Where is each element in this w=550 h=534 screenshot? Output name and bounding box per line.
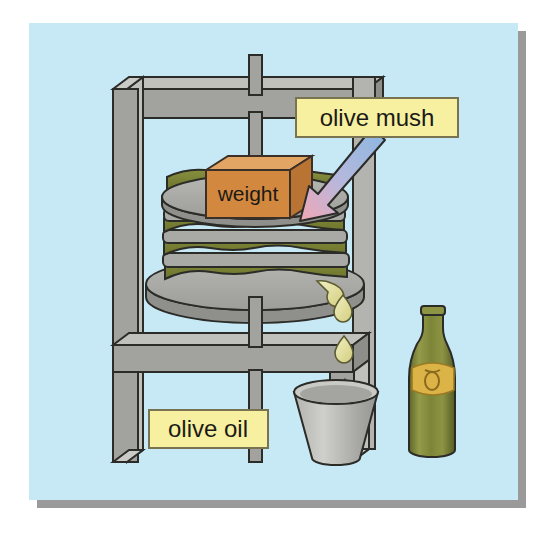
weight-label: weight <box>217 182 279 205</box>
olive-oil-label-text: olive oil <box>168 415 248 442</box>
frame-mid-beam-top-face <box>113 333 369 345</box>
bucket-inner <box>300 385 372 403</box>
press-mat-4 <box>163 230 347 243</box>
screw-rod-top-segment <box>249 55 262 95</box>
label-olive-mush: olive mush <box>296 98 458 137</box>
frame-mid-beam-front-face <box>113 345 353 372</box>
screw-rod-mid-segment <box>249 297 262 347</box>
press-mat-5 <box>163 253 349 267</box>
bottle-cap <box>421 306 445 315</box>
frame-left-post-front-face <box>113 89 138 462</box>
weight-block: weight <box>206 156 312 218</box>
olive-mush-label-text: olive mush <box>320 104 435 131</box>
label-olive-oil: olive oil <box>149 410 268 448</box>
olive-press-illustration: weight olive <box>0 0 550 534</box>
illustration-root: weight olive <box>0 0 550 534</box>
